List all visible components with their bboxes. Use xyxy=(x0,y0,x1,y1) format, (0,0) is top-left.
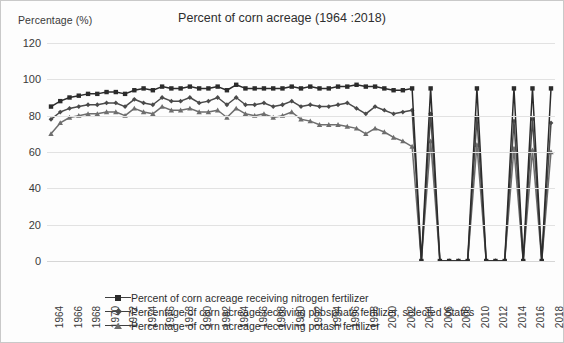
plot-area: 020406080100120 xyxy=(47,43,555,261)
data-point-marker xyxy=(262,86,266,90)
legend-marker-icon xyxy=(105,306,131,318)
data-point-marker xyxy=(113,101,118,106)
legend-marker-icon xyxy=(105,292,131,304)
data-point-marker xyxy=(76,104,81,109)
data-point-marker xyxy=(428,86,432,90)
gridline xyxy=(47,79,555,80)
series-line xyxy=(51,98,551,262)
y-axis-tick-label: 20 xyxy=(29,219,41,231)
gridline xyxy=(47,188,555,189)
data-point-marker xyxy=(391,88,395,92)
data-point-marker xyxy=(114,90,118,94)
data-point-marker xyxy=(104,101,109,106)
data-point-marker xyxy=(86,92,90,96)
data-point-marker xyxy=(123,92,127,96)
data-point-marker xyxy=(271,104,276,109)
legend-item[interactable]: Percentage of corn acreage receiving pho… xyxy=(105,305,525,318)
data-point-marker xyxy=(308,84,312,88)
data-point-marker xyxy=(410,86,414,90)
data-point-marker xyxy=(132,106,137,111)
data-point-marker xyxy=(95,102,100,107)
gridline xyxy=(47,225,555,226)
data-point-marker xyxy=(197,86,201,90)
chart-title: Percent of corn acreage (1964 :2018) xyxy=(1,11,563,25)
data-point-marker xyxy=(252,102,257,107)
data-point-marker xyxy=(67,95,71,99)
legend-item[interactable]: Percent of corn acreage receiving nitrog… xyxy=(105,291,525,304)
data-point-marker xyxy=(178,99,183,104)
data-point-marker xyxy=(95,92,99,96)
data-point-marker xyxy=(401,88,405,92)
data-point-marker xyxy=(86,102,91,107)
data-point-marker xyxy=(225,88,229,92)
data-point-marker xyxy=(49,104,53,108)
data-point-marker xyxy=(549,86,553,90)
data-point-marker xyxy=(77,93,81,97)
chart-legend: Percent of corn acreage receiving nitrog… xyxy=(105,291,525,333)
y-axis-tick-label: 80 xyxy=(29,110,41,122)
data-point-marker xyxy=(243,86,247,90)
gridline xyxy=(47,152,555,153)
data-point-marker xyxy=(317,104,322,109)
data-point-marker xyxy=(141,86,145,90)
data-point-marker xyxy=(234,83,238,87)
y-axis-tick-label: 60 xyxy=(29,146,41,158)
data-point-marker xyxy=(317,86,321,90)
data-point-marker xyxy=(327,86,331,90)
data-point-marker xyxy=(169,99,174,104)
data-point-marker xyxy=(58,99,62,103)
data-point-marker xyxy=(206,99,211,104)
data-point-marker xyxy=(104,90,108,94)
data-point-marker xyxy=(336,102,341,107)
gridline xyxy=(47,261,555,262)
data-point-marker xyxy=(141,101,146,106)
data-point-marker xyxy=(289,109,294,114)
gridline xyxy=(47,116,555,117)
data-point-marker xyxy=(345,84,349,88)
data-point-marker xyxy=(253,86,257,90)
series-line xyxy=(51,85,551,261)
x-axis-tick-label: 1966 xyxy=(59,290,70,312)
legend-item-label: Percent of corn acreage receiving nitrog… xyxy=(131,292,369,304)
legend-marker-icon xyxy=(105,320,131,332)
data-point-marker xyxy=(475,86,479,90)
data-point-marker xyxy=(364,84,368,88)
data-point-marker xyxy=(290,84,294,88)
data-point-marker xyxy=(400,110,405,115)
data-point-marker xyxy=(233,106,238,111)
data-point-marker xyxy=(326,104,331,109)
x-axis-tick-label: 1964 xyxy=(40,290,51,312)
data-point-marker xyxy=(262,101,267,106)
data-point-marker xyxy=(159,104,164,109)
data-point-marker xyxy=(280,102,285,107)
y-axis-tick-label: 0 xyxy=(35,255,41,267)
legend-item[interactable]: Percentage of corn acreage receiving pot… xyxy=(105,319,525,332)
legend-item-label: Percentage of corn acreage receiving pho… xyxy=(131,306,474,318)
data-point-marker xyxy=(299,86,303,90)
y-axis-tick-label: 100 xyxy=(23,73,41,85)
data-point-marker xyxy=(271,86,275,90)
data-point-marker xyxy=(67,106,72,111)
legend-item-label: Percentage of corn acreage receiving pot… xyxy=(131,320,380,332)
y-axis-tick-label: 120 xyxy=(23,37,41,49)
data-point-marker xyxy=(280,86,284,90)
data-point-marker xyxy=(530,86,534,90)
chart-container: Percentage (%) Percent of corn acreage (… xyxy=(0,0,564,343)
data-point-marker xyxy=(169,86,173,90)
data-point-marker xyxy=(512,86,516,90)
data-point-marker xyxy=(132,88,136,92)
data-point-marker xyxy=(188,84,192,88)
data-point-marker xyxy=(178,86,182,90)
x-axis-tick-label: 1968 xyxy=(77,290,88,312)
gridline xyxy=(47,43,555,44)
y-axis-tick-label: 40 xyxy=(29,182,41,194)
data-point-marker xyxy=(215,84,219,88)
data-point-marker xyxy=(382,108,387,113)
data-point-marker xyxy=(372,126,377,131)
data-point-marker xyxy=(373,84,377,88)
data-point-marker xyxy=(336,84,340,88)
data-point-marker xyxy=(382,86,386,90)
x-axis-tick-label: 2018 xyxy=(540,290,551,312)
data-point-marker xyxy=(354,83,358,87)
data-point-marker xyxy=(206,86,210,90)
